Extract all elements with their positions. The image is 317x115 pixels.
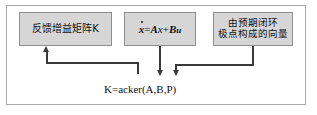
connector-pole-vector-drop xyxy=(252,46,254,66)
node-pole-vector-line2: 极点构成的向量 xyxy=(218,29,288,40)
node-feedback-gain-label: 反馈增益矩阵K xyxy=(32,23,99,34)
connector-caption-to-left xyxy=(46,62,139,64)
feedback-gain-inbound-arrowhead xyxy=(43,46,49,52)
state-equation-outbound-arrowhead xyxy=(157,70,163,76)
node-desired-pole-vector: 由预期闭环 极点构成的向量 xyxy=(213,12,293,46)
diagram-canvas: 反馈增益矩阵K x=Ax+Bu 由预期闭环 极点构成的向量 K=acker(A,… xyxy=(0,0,317,115)
pole-vector-outbound-arrowhead xyxy=(173,70,179,76)
node-feedback-gain-matrix: 反馈增益矩阵K xyxy=(19,12,112,46)
formula-x-dot: x xyxy=(139,23,145,35)
node-state-equation: x=Ax+Bu xyxy=(124,12,196,46)
connector-left-riser xyxy=(46,52,48,64)
formula-input-u: u xyxy=(176,25,181,35)
caption-acker-command: K=acker(A,B,P) xyxy=(104,83,176,95)
connector-pole-vector-to-left xyxy=(175,64,254,66)
state-equation-formula: x=Ax+Bu xyxy=(139,23,182,35)
formula-matrix-a: A xyxy=(150,23,157,35)
connector-state-equation-drop xyxy=(159,46,161,72)
